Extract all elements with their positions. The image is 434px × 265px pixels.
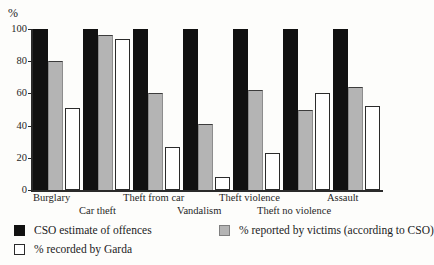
gray-square-swatch <box>219 225 230 236</box>
bar-group <box>283 29 333 190</box>
y-axis-unit-label: % <box>8 6 18 21</box>
bar <box>365 106 380 190</box>
y-axis-tick-mark <box>28 126 32 127</box>
x-axis-category-labels: BurglaryCar theftTheft from carVandalism… <box>31 192 391 222</box>
y-axis-tick-mark <box>28 93 32 94</box>
black-square-swatch <box>14 225 25 236</box>
category-label-assault: Assault <box>327 192 359 204</box>
y-axis-tick-label: 60 <box>1 88 27 98</box>
bars-layer <box>33 29 383 190</box>
bar-group <box>333 29 383 190</box>
bar <box>65 108 80 190</box>
bar <box>265 153 280 190</box>
legend-entry-reported-by-victims: % reported by victims (according to CSO) <box>219 224 434 237</box>
category-label-theft-from-car: Theft from car <box>123 192 184 204</box>
legend-row-first: CSO estimate of offences % reported by v… <box>14 224 414 242</box>
bar <box>133 29 148 190</box>
y-axis-tick-mark <box>28 29 32 30</box>
bar <box>348 87 363 190</box>
white-square-swatch <box>14 244 25 255</box>
legend-label-reported-by-victims: % reported by victims (according to CSO) <box>239 224 434 237</box>
bar-group <box>133 29 183 190</box>
bar <box>315 93 330 190</box>
category-label-burglary: Burglary <box>33 192 70 204</box>
bar <box>98 35 113 190</box>
bar <box>215 177 230 190</box>
bar <box>48 61 63 190</box>
category-label-theft-no-violence: Theft no violence <box>257 205 331 217</box>
legend-label-cso-estimate: CSO estimate of offences <box>34 224 152 237</box>
y-axis-tick-mark <box>28 190 32 191</box>
bar <box>248 90 263 190</box>
category-label-theft-violence: Theft violence <box>219 192 280 204</box>
bar-group <box>33 29 83 190</box>
y-axis-tick-mark <box>28 61 32 62</box>
bar <box>333 29 348 190</box>
y-axis-tick-label: 40 <box>1 121 27 131</box>
bar-group <box>83 29 133 190</box>
bar <box>183 29 198 190</box>
bar <box>83 29 98 190</box>
bar-group <box>233 29 283 190</box>
y-axis-tick-label: 20 <box>1 153 27 163</box>
bar <box>148 93 163 190</box>
legend-entry-cso-estimate: CSO estimate of offences <box>14 224 152 237</box>
bar <box>283 29 298 190</box>
y-axis-tick-label: 100 <box>1 24 27 34</box>
bar <box>165 147 180 190</box>
bar <box>33 29 48 190</box>
y-axis-tick-label: 80 <box>1 56 27 66</box>
category-label-vandalism: Vandalism <box>177 205 221 217</box>
plot-area: 020406080100 <box>31 29 383 191</box>
y-axis-tick-label: 0 <box>1 185 27 195</box>
bar <box>198 124 213 190</box>
category-label-car-theft: Car theft <box>79 205 116 217</box>
legend-entry-recorded-by-garda: % recorded by Garda <box>14 243 132 256</box>
bar <box>115 39 130 190</box>
legend-label-recorded-by-garda: % recorded by Garda <box>34 243 132 256</box>
y-axis-tick-mark <box>28 158 32 159</box>
bar <box>233 29 248 190</box>
bar <box>298 110 313 191</box>
bar-group <box>183 29 233 190</box>
legend-row-second: % recorded by Garda <box>14 243 414 261</box>
